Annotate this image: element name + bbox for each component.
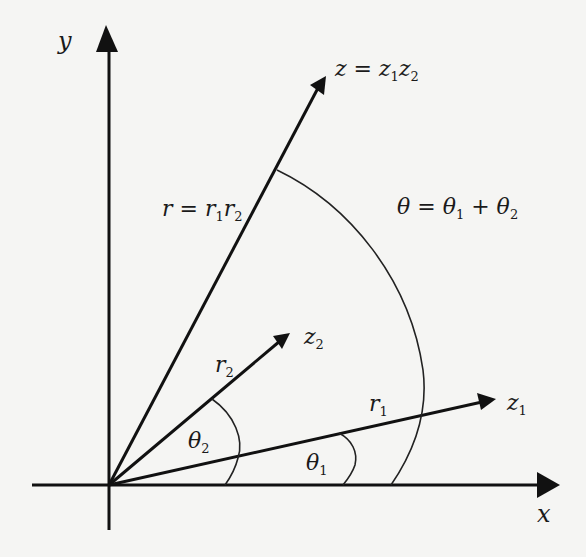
polar-multiplication-diagram [0, 0, 586, 557]
z-product-lhs: z = z [335, 56, 391, 81]
y-axis-label-text: y [58, 27, 72, 55]
theta-sum-mid: + θ [464, 194, 510, 219]
theta2-label: θ2 [188, 430, 210, 455]
theta1-label-main: θ [306, 450, 319, 475]
z2-label-main: z [304, 324, 316, 349]
r-product-mid: r [224, 196, 235, 221]
vector-z2 [109, 341, 280, 485]
r-product-label: r = r1r2 [162, 198, 243, 223]
r-product-lhs: r = r [162, 196, 215, 221]
r1-label-sub: 1 [380, 404, 388, 419]
r2-label: r2 [215, 354, 234, 379]
theta2-label-main: θ [188, 428, 201, 453]
r1-label-main: r [369, 391, 380, 416]
z2-label-sub: 2 [316, 337, 324, 352]
z-product-label: z = z1z2 [335, 58, 419, 83]
x-axis-arrowhead-icon [537, 472, 560, 498]
r1-label: r1 [369, 393, 388, 418]
r-product-sub-a: 1 [215, 209, 223, 224]
theta-sum-label: θ = θ1 + θ2 [397, 196, 518, 221]
r2-label-main: r [215, 352, 226, 377]
y-axis-arrowhead-icon [96, 25, 118, 52]
z2-label: z2 [304, 326, 324, 351]
x-axis-label: x [537, 502, 551, 526]
vector-z1 [109, 402, 482, 485]
theta1-label: θ1 [306, 452, 328, 477]
vector-z-arrowhead-icon [310, 76, 326, 95]
y-axis-label: y [58, 29, 72, 53]
r2-label-sub: 2 [226, 365, 234, 380]
theta-sum-sub-b: 2 [510, 207, 518, 222]
r-product-sub-b: 2 [234, 209, 242, 224]
z1-label-sub: 1 [519, 403, 527, 418]
theta2-label-sub: 2 [201, 441, 209, 456]
z-product-sub-b: 2 [410, 69, 418, 84]
vector-z [109, 88, 318, 485]
theta1-label-sub: 1 [319, 463, 327, 478]
vector-z1-arrowhead-icon [477, 393, 496, 410]
theta-sum-lhs: θ = θ [397, 194, 456, 219]
theta2-arc [212, 399, 240, 485]
x-axis-label-text: x [537, 500, 551, 528]
z1-label: z1 [507, 392, 527, 417]
z-product-mid: z [399, 56, 411, 81]
theta1-arc [339, 433, 356, 485]
theta-sum-sub-a: 1 [456, 207, 464, 222]
z-product-sub-a: 1 [391, 69, 399, 84]
z1-label-main: z [507, 390, 519, 415]
